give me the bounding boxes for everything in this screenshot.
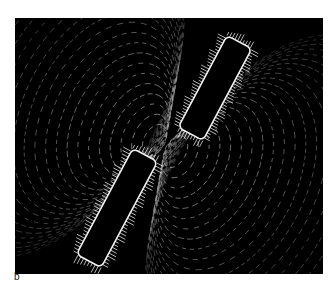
panel-label: b: [14, 272, 20, 282]
field-lines-illustration: [15, 18, 323, 274]
magnetic-field-photo: [15, 18, 323, 274]
